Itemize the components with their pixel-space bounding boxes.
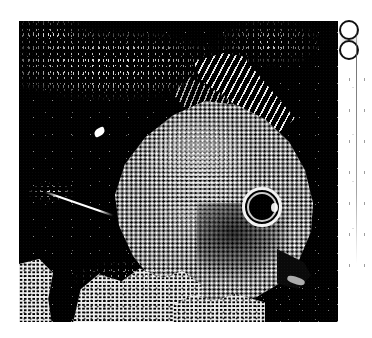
photograph: [19, 21, 338, 322]
fish-eye-pupil: [251, 196, 273, 218]
coral-rock-left: [19, 259, 53, 322]
coral-spray-speckles: [59, 249, 219, 289]
debris-cloud: [27, 179, 89, 205]
margin-speckles: [342, 64, 368, 274]
ledge-flecks: [231, 283, 338, 317]
margin-strip: [338, 14, 368, 326]
page-root: [0, 0, 372, 338]
fish-eye-glint: [271, 203, 278, 212]
